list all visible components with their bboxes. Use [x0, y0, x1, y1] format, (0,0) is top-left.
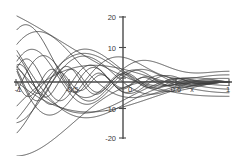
x-tick-label-0: 0 [128, 85, 132, 94]
plot-canvas: 20 10 -10 -20 -1 -0.5 0 0.5 1 x [0, 0, 237, 156]
y-tick-label-neg20: -20 [105, 134, 116, 143]
y-tick-label-20: 20 [108, 13, 116, 22]
x-tick-label-0-5: 0.5 [171, 85, 181, 94]
plot-figure: 20 10 -10 -20 -1 -0.5 0 0.5 1 x [0, 0, 237, 156]
y-axis [119, 16, 126, 139]
x-tick-label-neg0-5: -0.5 [66, 85, 79, 94]
y-tick-label-neg10: -10 [105, 105, 116, 114]
y-tick-label-10: 10 [108, 44, 116, 53]
x-tick-label-1: 1 [226, 85, 230, 94]
x-tick-label-neg1: -1 [15, 85, 22, 94]
x-axis-title: x [190, 86, 194, 93]
